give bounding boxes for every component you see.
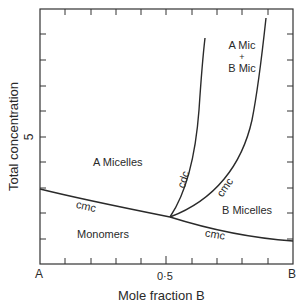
region-label-a-mic-b-mic: A Mic + B Mic [218, 40, 266, 74]
x-tick-label-b: B [288, 268, 296, 280]
label-plus: + [218, 52, 266, 62]
x-tick-label-0-5: 0·5 [157, 271, 173, 282]
y-ticks-left [40, 34, 46, 239]
x-ticks-bottom [65, 256, 268, 264]
cdc-curve [170, 38, 205, 217]
x-tick-label-a: A [35, 268, 43, 280]
cmc-curve-lower-right [170, 217, 293, 241]
region-label-monomers: Monomers [77, 229, 129, 240]
label-b-mic: B Mic [218, 63, 266, 74]
x-ticks-top [65, 9, 268, 15]
label-a-mic: A Mic [218, 40, 266, 51]
region-label-b-micelles: B Micelles [222, 205, 272, 216]
y-ticks-right [287, 34, 293, 239]
cmc-curve-left [40, 189, 170, 217]
y-tick-label-5: 5 [23, 134, 35, 141]
region-label-a-micelles: A Micelles [93, 157, 143, 168]
y-axis-title: Total concentration [7, 72, 20, 202]
x-axis-title: Mole fraction B [118, 289, 205, 302]
